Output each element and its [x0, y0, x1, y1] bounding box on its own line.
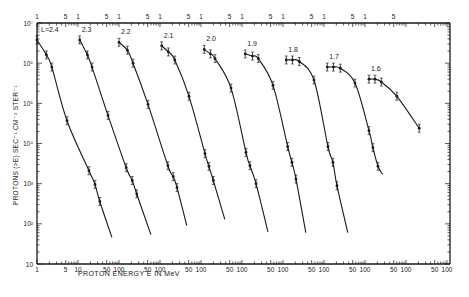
- data-point: [176, 186, 179, 189]
- data-point: [372, 146, 375, 149]
- x-top-tick-label: 1: [117, 13, 121, 20]
- y-tick-label: 10⁴: [23, 140, 33, 147]
- x-bottom-tick-label: 50: [431, 266, 439, 273]
- data-point: [295, 178, 298, 181]
- data-point: [107, 114, 110, 117]
- data-point: [131, 179, 134, 182]
- data-point: [86, 54, 89, 57]
- data-point: [172, 175, 175, 178]
- curve-label: 2.0: [206, 35, 216, 42]
- x-top-tick-label: 1: [240, 13, 244, 20]
- x-top-tick-label: 1: [322, 13, 326, 20]
- data-point: [326, 66, 329, 69]
- data-point: [354, 82, 357, 85]
- data-point: [291, 59, 294, 62]
- curve-label: 2.3: [82, 26, 92, 33]
- curve-label: 1.9: [247, 40, 257, 47]
- x-top-tick-label: 5: [64, 13, 68, 20]
- data-point: [203, 48, 206, 51]
- data-point: [36, 38, 39, 41]
- data-point: [286, 145, 289, 148]
- x-bottom-tick-label: 100: [401, 266, 412, 273]
- data-point: [339, 67, 342, 70]
- x-bottom-tick-label: 50: [185, 266, 193, 273]
- data-point: [167, 164, 170, 167]
- x-bottom-tick-label: 1: [35, 266, 39, 273]
- curve-l18: [286, 60, 348, 233]
- x-top-tick-label: 5: [187, 13, 191, 20]
- curve-l22: [119, 42, 187, 225]
- data-point: [368, 129, 371, 132]
- data-point: [245, 151, 248, 154]
- chart: 10⁷10⁶10⁵10⁴10³10²1015151515151515151515…: [0, 0, 469, 297]
- data-point: [368, 78, 371, 81]
- x-bottom-tick-label: 50: [390, 266, 398, 273]
- data-point: [377, 165, 380, 168]
- data-point: [204, 152, 207, 155]
- data-point: [147, 103, 150, 106]
- curve-l20: [204, 49, 268, 232]
- curve-l16: [369, 79, 419, 128]
- curve-label: L=2.4: [41, 26, 59, 33]
- data-point: [78, 38, 81, 41]
- data-point: [135, 192, 138, 195]
- data-point: [126, 49, 129, 52]
- data-point: [209, 53, 212, 56]
- data-point: [230, 87, 233, 90]
- data-point: [332, 161, 335, 164]
- x-top-tick-label: 1: [363, 13, 367, 20]
- data-point: [374, 78, 377, 81]
- y-tick-label: 10⁶: [23, 60, 33, 67]
- data-point: [66, 119, 69, 122]
- data-point: [212, 179, 215, 182]
- x-top-tick-label: 1: [35, 13, 39, 20]
- y-tick-label: 10³: [24, 180, 34, 187]
- data-point: [132, 62, 135, 65]
- x-bottom-tick-label: 100: [196, 266, 207, 273]
- data-point: [418, 127, 421, 130]
- data-point: [251, 55, 254, 58]
- x-top-tick-label: 1: [281, 13, 285, 20]
- x-bottom-tick-label: 50: [308, 266, 316, 273]
- data-point: [94, 183, 97, 186]
- data-point: [167, 51, 170, 54]
- curve-label: 1.6: [371, 65, 381, 72]
- data-point: [244, 53, 247, 56]
- data-point: [336, 184, 339, 187]
- data-point: [88, 169, 91, 172]
- x-bottom-tick-label: 50: [267, 266, 275, 273]
- data-point: [291, 161, 294, 164]
- x-bottom-tick-label: 50: [349, 266, 357, 273]
- x-top-tick-label: 1: [158, 13, 162, 20]
- data-point: [272, 84, 275, 87]
- x-bottom-tick-label: 100: [319, 266, 330, 273]
- x-top-tick-label: 5: [105, 13, 109, 20]
- x-axis-label: PROTON ENERGY E IN MeV: [78, 270, 180, 277]
- data-point: [91, 66, 94, 69]
- data-point: [285, 59, 288, 62]
- data-point: [257, 57, 260, 60]
- x-bottom-tick-label: 100: [237, 266, 248, 273]
- plot-area: 10⁷10⁶10⁵10⁴10³10²1015151515151515151515…: [0, 0, 469, 297]
- x-top-tick-label: 5: [310, 13, 314, 20]
- x-bottom-tick-label: 5: [64, 266, 68, 273]
- data-point: [332, 66, 335, 69]
- curve-l19: [245, 54, 306, 233]
- data-point: [327, 145, 330, 148]
- x-top-tick-label: 5: [351, 13, 355, 20]
- y-tick-label: 10²: [24, 220, 34, 227]
- curve-label: 2.2: [121, 28, 131, 35]
- data-point: [173, 59, 176, 62]
- x-top-tick-label: 5: [392, 13, 396, 20]
- curve-l24: [37, 40, 112, 238]
- data-point: [118, 41, 121, 44]
- data-point: [208, 165, 211, 168]
- data-point: [380, 81, 383, 84]
- x-top-tick-label: 5: [269, 13, 273, 20]
- data-point: [396, 95, 399, 98]
- curve-l21: [162, 46, 225, 220]
- curve-l23: [80, 40, 151, 235]
- y-tick-label: 10⁷: [23, 20, 33, 27]
- y-tick-label: 10⁵: [23, 100, 33, 107]
- data-point: [249, 164, 252, 167]
